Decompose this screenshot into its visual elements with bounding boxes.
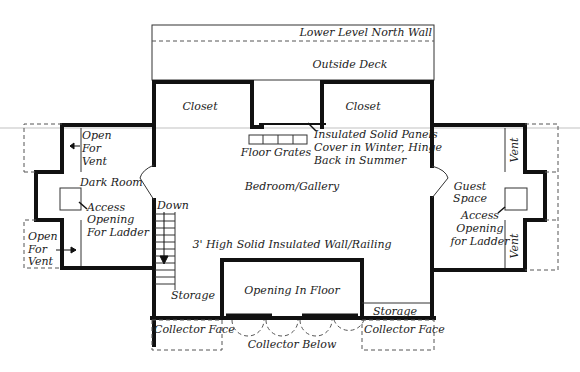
- vent-left-top-outline: [24, 124, 62, 172]
- vent-left-bottom-arrow-icon: [56, 247, 76, 253]
- access-left-label-2: Opening: [87, 213, 134, 226]
- access-right-opening: [505, 188, 527, 210]
- storage-right-label: Storage: [373, 305, 417, 318]
- collector-face-left-label: Collector Face: [154, 323, 235, 336]
- floor-grates-label: Floor Grates: [240, 146, 312, 159]
- dark-room-label: Dark Room: [79, 176, 143, 189]
- collector-face-right-label: Collector Face: [364, 323, 445, 336]
- closet-left-label: Closet: [182, 100, 218, 113]
- vent-left-bottom-label-3: Vent: [28, 255, 54, 268]
- stairs: [155, 212, 175, 290]
- bedroom-label: Bedroom/Gallery: [244, 180, 340, 193]
- opening-in-floor-label: Opening In Floor: [244, 284, 340, 297]
- floor-grates: [249, 135, 307, 144]
- closet-right-label: Closet: [345, 100, 381, 113]
- vent-left-bottom-label-1: Open: [28, 230, 58, 243]
- vent-left-top-label-3: Vent: [82, 155, 108, 168]
- collector-below-label: Collector Below: [248, 338, 337, 351]
- storage-left-label: Storage: [171, 289, 215, 302]
- down-label: Down: [156, 199, 189, 212]
- vent-left-top-label-1: Open: [82, 129, 112, 142]
- access-right-arrow-icon: [498, 207, 505, 213]
- guest-space-label-2: Space: [453, 192, 487, 205]
- access-right-label-3: for Ladder: [449, 235, 510, 248]
- stairs-down-arrow-icon: [160, 212, 168, 264]
- access-left-label-3: For Ladder: [86, 226, 150, 239]
- vent-left-top-arrow-icon: [70, 143, 80, 149]
- access-right-label-2: Opening: [456, 222, 503, 235]
- vent-right-outline: [525, 124, 558, 270]
- panels-label-line2: Cover in Winter, Hinge: [314, 141, 443, 154]
- vent-left-top-label-2: For: [81, 142, 102, 155]
- access-left-opening: [60, 188, 81, 210]
- railing-label: 3' High Solid Insulated Wall/Railing: [192, 238, 391, 251]
- north-wall-label: Lower Level North Wall: [298, 26, 432, 39]
- guest-space-door: [432, 166, 448, 198]
- access-right-label-1: Access: [460, 209, 499, 222]
- panels-label-line3: Back in Summer: [313, 154, 407, 167]
- vent-right-bottom-label: Vent: [508, 233, 521, 259]
- outside-deck-label: Outside Deck: [313, 58, 388, 71]
- vent-right-top-label: Vent: [508, 137, 521, 163]
- collector-arcs: [232, 320, 364, 336]
- panels-label-line1: Insulated Solid Panels: [313, 128, 438, 141]
- floor-plan: Lower Level North Wall Outside Deck Clos…: [0, 0, 580, 372]
- access-left-arrow-icon: [79, 202, 87, 209]
